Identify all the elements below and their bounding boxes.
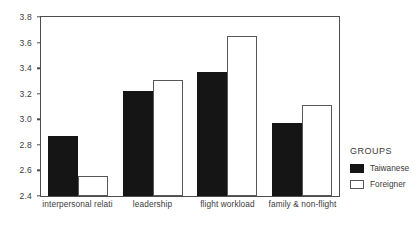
bar-taiwanese	[123, 91, 153, 196]
x-axis-label: interpersonal relati	[40, 199, 115, 209]
x-axis-label: family & non-flight	[265, 199, 340, 209]
y-axis-tick-label: 3.2	[20, 89, 32, 99]
bar-foreigner	[153, 80, 183, 196]
bar-group	[190, 17, 265, 196]
y-axis-tick-mark	[37, 119, 41, 120]
y-axis-tick-label: 2.8	[20, 140, 32, 150]
legend-title: GROUPS	[350, 146, 420, 156]
legend-swatch-foreigner	[350, 180, 364, 189]
bar-taiwanese	[48, 136, 78, 196]
y-axis-tick-mark	[37, 93, 41, 94]
bar-group	[265, 17, 340, 196]
y-axis-tick-label: 3.6	[20, 38, 32, 48]
bar-group	[41, 17, 116, 196]
legend-label: Taiwanese	[370, 163, 409, 173]
legend-swatch-taiwanese	[350, 164, 364, 173]
y-axis-tick-mark	[37, 16, 41, 17]
plot-area	[41, 17, 339, 196]
y-axis-tick-mark	[37, 195, 41, 196]
y-axis-tick-label: 3.8	[20, 12, 32, 22]
chart-legend: GROUPS TaiwaneseForeigner	[350, 146, 420, 195]
x-axis-labels: interpersonal relatileadershipflight wor…	[40, 199, 340, 209]
legend-label: Foreigner	[370, 179, 406, 189]
legend-item[interactable]: Foreigner	[350, 179, 420, 189]
x-axis-label: flight workload	[190, 199, 265, 209]
y-axis-tick-label: 3.0	[20, 114, 32, 124]
bar-foreigner	[302, 105, 332, 196]
bar-groups	[41, 17, 339, 196]
bar-group	[116, 17, 191, 196]
y-axis-tick-mark	[37, 42, 41, 43]
y-axis-tick-mark	[37, 170, 41, 171]
bar-taiwanese	[272, 123, 302, 196]
legend-entries: TaiwaneseForeigner	[350, 163, 420, 189]
x-axis-label: leadership	[115, 199, 190, 209]
y-axis-tick-label: 2.6	[20, 165, 32, 175]
plot-frame: 3.83.63.43.23.02.82.62.4	[40, 16, 340, 197]
legend-item[interactable]: Taiwanese	[350, 163, 420, 173]
y-axis-tick-label: 3.4	[20, 63, 32, 73]
bar-foreigner	[78, 176, 108, 196]
y-axis-tick-mark	[37, 67, 41, 68]
y-axis-tick-label: 2.4	[20, 191, 32, 201]
y-axis-tick-mark	[37, 144, 41, 145]
bar-foreigner	[227, 36, 257, 196]
bar-chart: 3.83.63.43.23.02.82.62.4 interpersonal r…	[0, 0, 420, 231]
bar-taiwanese	[197, 72, 227, 196]
